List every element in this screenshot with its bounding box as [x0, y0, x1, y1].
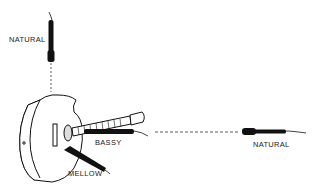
guitar-mic-diagram — [0, 0, 315, 196]
top-mic-icon — [48, 12, 55, 62]
label-natural-far: NATURAL — [253, 140, 290, 149]
far-mic-icon — [242, 128, 306, 135]
label-natural-top: NATURAL — [9, 35, 46, 44]
label-mellow: MELLOW — [68, 169, 102, 178]
label-bassy: BASSY — [95, 138, 122, 147]
bassy-mic-icon — [84, 129, 148, 136]
